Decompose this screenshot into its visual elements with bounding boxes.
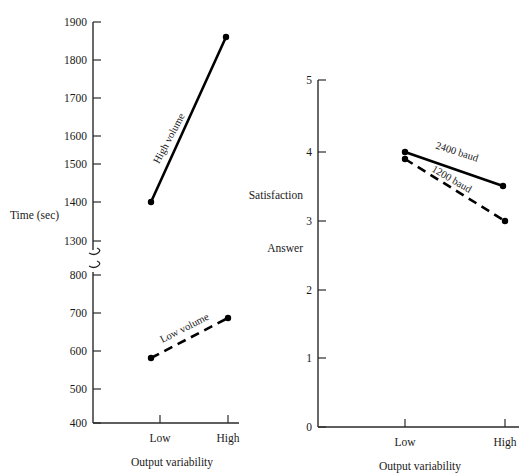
right-panel: 5 4 3 2 1 0 Satisfaction Answer Low High…: [249, 74, 519, 473]
left-x-axis-title: Output variability: [131, 456, 213, 469]
right-y-ticks: [318, 80, 326, 427]
left-ytick-1700: 1700: [64, 92, 87, 104]
left-xtick-low: Low: [149, 432, 171, 444]
right-xtick-high: High: [494, 436, 517, 449]
left-ytick-700: 700: [70, 307, 88, 319]
marker-low-volume-low: [148, 355, 154, 361]
marker-2400-baud-high: [500, 183, 506, 189]
marker-high-volume-high: [223, 34, 229, 40]
left-ytick-500: 500: [70, 383, 88, 395]
series-label-2400-baud: 2400 baud: [434, 140, 480, 164]
series-1200-baud: 1200 baud: [402, 156, 508, 224]
right-ytick-2: 2: [306, 284, 312, 296]
right-ytick-0: 0: [306, 421, 312, 433]
series-high-volume: High volume: [148, 34, 229, 205]
left-y-axis-title: Time (sec): [10, 209, 59, 222]
marker-1200-baud-low: [402, 156, 408, 162]
series-label-high-volume: High volume: [151, 111, 187, 165]
left-ytick-400: 400: [70, 417, 88, 429]
figure-svg: 1900 1800 1700 1600 1500 1400 1300 800 7…: [0, 0, 531, 474]
marker-high-volume-low: [148, 199, 154, 205]
right-xtick-low: Low: [394, 436, 416, 448]
left-ytick-600: 600: [70, 345, 88, 357]
left-ytick-1500: 1500: [64, 158, 87, 170]
left-ytick-1900: 1900: [64, 16, 87, 28]
left-ytick-1400: 1400: [64, 196, 87, 208]
left-panel: 1900 1800 1700 1600 1500 1400 1300 800 7…: [10, 16, 240, 469]
marker-1200-baud-high: [502, 218, 508, 224]
left-axis-break-icon: [89, 248, 100, 268]
figure-container: 1900 1800 1700 1600 1500 1400 1300 800 7…: [0, 0, 531, 474]
marker-2400-baud-low: [402, 149, 408, 155]
left-ytick-1300: 1300: [64, 235, 87, 247]
right-ytick-1: 1: [306, 352, 312, 364]
left-y-ticks-lower: [93, 275, 101, 423]
right-ytick-4: 4: [306, 146, 312, 158]
series-low-volume: Low volume: [148, 311, 231, 361]
right-y-axis-title-satisfaction: Satisfaction: [249, 189, 304, 201]
left-ytick-1600: 1600: [64, 130, 87, 142]
left-xtick-high: High: [217, 432, 240, 445]
right-x-axis-title: Output variability: [379, 460, 461, 473]
left-y-ticks-upper: [93, 22, 101, 241]
right-ytick-3: 3: [306, 215, 312, 227]
right-y-axis-title-answer: Answer: [267, 242, 303, 254]
right-ytick-5: 5: [306, 74, 312, 86]
left-ytick-800: 800: [70, 269, 88, 281]
left-ytick-1800: 1800: [64, 54, 87, 66]
marker-low-volume-high: [225, 315, 231, 321]
